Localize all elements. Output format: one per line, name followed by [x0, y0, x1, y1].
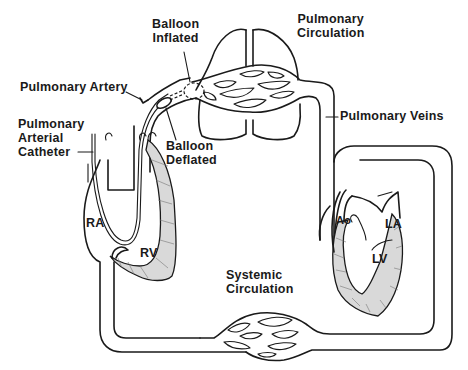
catheter-line3: Catheter — [18, 145, 84, 159]
balloon-inflated-shape — [170, 52, 204, 100]
left-heart — [319, 190, 402, 316]
systemic-circulation-line1: Systemic — [226, 268, 293, 282]
pulmonary-arterial-catheter-label: Pulmonary Arterial Catheter — [18, 117, 84, 159]
balloon-inflated-label: Balloon Inflated — [152, 17, 199, 45]
diagram-artwork — [0, 0, 468, 370]
balloon-inflated-line2: Inflated — [152, 31, 199, 45]
balloon-deflated-line1: Balloon — [166, 139, 217, 153]
balloon-deflated-line2: Deflated — [166, 153, 217, 167]
balloon-deflated-label: Balloon Deflated — [166, 139, 217, 167]
systemic-capillary-bed — [200, 146, 452, 361]
pulmonary-artery-pointer — [126, 92, 142, 100]
circulation-diagram: Balloon Inflated Pulmonary Circulation P… — [0, 0, 468, 370]
pulmonary-circulation-line2: Circulation — [297, 26, 364, 40]
catheter-line1: Pulmonary — [18, 117, 84, 131]
left-atrium-label: LA — [385, 217, 402, 231]
right-ventricle-label: RV — [140, 246, 158, 260]
pulmonary-artery-label: Pulmonary Artery — [20, 80, 128, 94]
systemic-circulation-label: Systemic Circulation — [226, 268, 293, 296]
catheter-line2: Arterial — [18, 131, 84, 145]
lungs-outline — [196, 29, 300, 139]
pulmonary-circulation-line1: Pulmonary — [297, 12, 364, 26]
pulmonary-artery-vessel — [108, 78, 196, 190]
right-atrium-label: RA — [86, 216, 104, 230]
pulmonary-circulation-label: Pulmonary Circulation — [297, 12, 364, 40]
balloon-inflated-line1: Balloon — [152, 17, 199, 31]
pulmonary-veins-label: Pulmonary Veins — [340, 109, 444, 123]
aorta-label: Ao — [336, 213, 351, 227]
balloon-deflated-shape — [155, 96, 176, 140]
systemic-circulation-line2: Circulation — [226, 282, 293, 296]
left-ventricle-label: LV — [372, 252, 387, 266]
